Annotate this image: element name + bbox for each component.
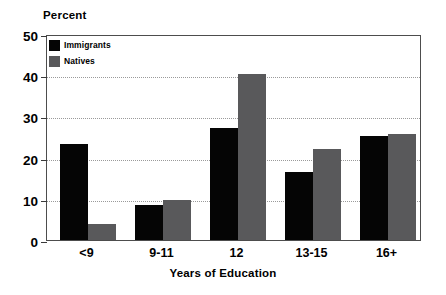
bar-chart: Percent 01020304050 ImmigrantsNatives <9… — [0, 0, 446, 295]
bar[interactable] — [238, 74, 266, 240]
x-axis-tick-label: 9-11 — [122, 246, 202, 260]
legend-item[interactable]: Immigrants — [49, 38, 111, 52]
bar[interactable] — [285, 172, 313, 240]
bar-group — [210, 36, 266, 240]
legend-item[interactable]: Natives — [49, 54, 111, 68]
bar[interactable] — [163, 200, 191, 240]
plot-area: 01020304050 ImmigrantsNatives — [46, 35, 421, 241]
bar[interactable] — [210, 128, 238, 240]
legend-swatch-icon — [49, 40, 60, 51]
x-axis-tick-label: 12 — [197, 246, 277, 260]
bar[interactable] — [60, 144, 88, 240]
x-axis-tick-label: 13-15 — [272, 246, 352, 260]
legend-label: Natives — [64, 56, 95, 66]
legend-swatch-icon — [49, 56, 60, 67]
y-axis-tick-label: 30 — [23, 111, 38, 126]
bar[interactable] — [360, 136, 388, 240]
bar[interactable] — [88, 224, 116, 240]
legend: ImmigrantsNatives — [48, 37, 111, 70]
x-axis-tick-label: <9 — [47, 246, 127, 260]
x-axis-title: Years of Education — [0, 267, 446, 279]
bar[interactable] — [388, 134, 416, 240]
legend-label: Immigrants — [64, 40, 111, 50]
y-axis-tick-label: 40 — [23, 70, 38, 85]
bar[interactable] — [135, 205, 163, 240]
y-axis-tick-label: 10 — [23, 193, 38, 208]
bar-group — [360, 36, 416, 240]
y-axis-tick-label: 50 — [23, 29, 38, 44]
y-axis-title: Percent — [43, 9, 87, 21]
x-axis-tick-label: 16+ — [347, 246, 427, 260]
y-axis-tick-label: 0 — [30, 235, 38, 250]
bar[interactable] — [313, 149, 341, 240]
bar-group — [135, 36, 191, 240]
y-axis-tick — [41, 242, 47, 243]
bar-group — [285, 36, 341, 240]
y-axis-tick-label: 20 — [23, 152, 38, 167]
